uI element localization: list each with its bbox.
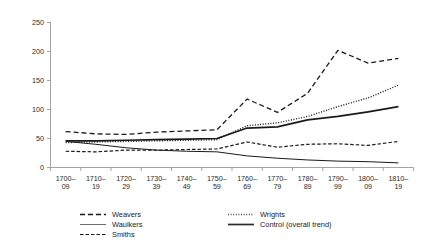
series-line-weavers: [66, 50, 399, 134]
x-tick-label: 1750–59: [207, 174, 227, 192]
x-tick-label-line2: 39: [152, 182, 160, 191]
series-line-waulkers: [66, 141, 399, 162]
legend-item-control-overall-trend[interactable]: Control (overall trend): [228, 220, 331, 229]
legend-item-weavers[interactable]: Weavers: [80, 210, 141, 219]
x-tick-label: 1710–19: [86, 174, 106, 192]
x-tick-label: 1800–09: [358, 174, 378, 192]
series-group: [66, 50, 399, 163]
x-tick-label: 1770–79: [267, 174, 287, 192]
y-tick-label: 0: [40, 163, 44, 172]
x-tick-label: 1740–49: [177, 174, 197, 192]
line-chart: 0501001502002501700–091710–191720–291730…: [0, 0, 429, 247]
chart-figure: 0501001502002501700–091710–191720–291730…: [0, 0, 429, 247]
x-tick-label-line2: 89: [304, 182, 312, 191]
y-axis: 050100150200250: [32, 18, 51, 172]
legend-item-waulkers[interactable]: Waulkers: [80, 220, 143, 229]
x-tick-label: 1780–89: [298, 174, 318, 192]
y-tick-label: 250: [32, 18, 44, 27]
x-axis: 1700–091710–191720–291730–391740–491750–…: [51, 168, 414, 192]
x-tick-label: 1700–09: [56, 174, 76, 192]
x-tick-label-line2: 59: [213, 182, 221, 191]
x-tick-label: 1760–69: [237, 174, 257, 192]
x-tick-label: 1720–29: [116, 174, 136, 192]
x-tick-label-line2: 09: [364, 182, 372, 191]
x-tick-label-line2: 09: [62, 182, 70, 191]
y-tick-label: 200: [32, 47, 44, 56]
legend-label-smiths: Smiths: [112, 230, 135, 239]
x-tick-label-line2: 29: [122, 182, 130, 191]
legend-item-wrights[interactable]: Wrights: [228, 210, 285, 219]
y-tick-label: 150: [32, 76, 44, 85]
y-tick-label: 50: [36, 134, 44, 143]
x-tick-label-line2: 19: [92, 182, 100, 191]
x-tick-label: 1810–19: [388, 174, 408, 192]
legend-item-smiths[interactable]: Smiths: [80, 230, 135, 239]
chart-legend: WeaversWaulkersSmithsWrightsControl (ove…: [80, 210, 331, 239]
series-line-control-overall-trend: [66, 107, 399, 141]
legend-label-weavers: Weavers: [112, 210, 141, 219]
x-tick-label-line2: 19: [394, 182, 402, 191]
x-tick-label: 1730–39: [146, 174, 166, 192]
x-tick-label-line2: 99: [334, 182, 342, 191]
legend-label-waulkers: Waulkers: [112, 220, 143, 229]
x-tick-label-line2: 49: [183, 182, 191, 191]
y-tick-label: 100: [32, 105, 44, 114]
x-tick-label: 1790–99: [328, 174, 348, 192]
x-tick-label-line2: 69: [243, 182, 251, 191]
legend-label-control-overall-trend: Control (overall trend): [260, 220, 331, 229]
x-tick-label-line2: 79: [273, 182, 281, 191]
legend-label-wrights: Wrights: [260, 210, 285, 219]
